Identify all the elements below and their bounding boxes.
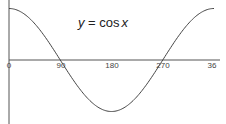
x-tick-label: 36: [208, 61, 217, 70]
x-tick-label: 270: [156, 61, 170, 70]
x-tick-label: 180: [105, 61, 119, 70]
chart-title: y = cosx: [77, 15, 129, 30]
x-tick-label: 0: [7, 61, 12, 70]
cosine-chart: 0 90 180 270 36 y = cosx: [0, 0, 226, 124]
x-tick-label: 90: [57, 61, 66, 70]
x-tick-labels: 0 90 180 270 36: [7, 61, 217, 70]
